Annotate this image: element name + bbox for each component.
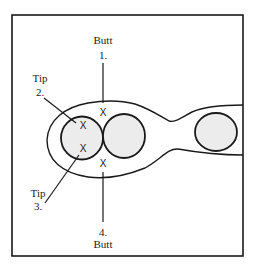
x-mark-2: X bbox=[80, 121, 87, 131]
far-right-ball bbox=[195, 113, 237, 151]
x-mark-1: X bbox=[100, 108, 107, 118]
leader-line-tip-3 bbox=[45, 155, 79, 203]
label-tip-2-word: Tip bbox=[33, 72, 48, 84]
label-butt-1-number: 1. bbox=[99, 49, 107, 61]
x-mark-4: X bbox=[100, 159, 107, 169]
label-butt-4-word: Butt bbox=[94, 238, 113, 250]
label-tip-2-number: 2. bbox=[36, 86, 44, 98]
leader-line-tip-2 bbox=[44, 98, 76, 123]
x-mark-3: X bbox=[80, 144, 87, 154]
diagram-canvas bbox=[0, 0, 255, 265]
label-butt-4-number: 4. bbox=[99, 226, 107, 238]
label-tip-3-word: Tip bbox=[31, 187, 46, 199]
middle-ball bbox=[103, 114, 145, 158]
label-tip-3-number: 3. bbox=[34, 200, 42, 212]
label-butt-1-word: Butt bbox=[94, 34, 113, 46]
